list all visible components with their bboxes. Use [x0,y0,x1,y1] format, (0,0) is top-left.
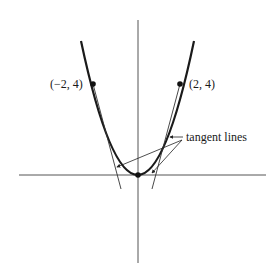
label-neg2-4: (−2, 4) [50,77,83,91]
parabola-diagram: (−2, 4) (2, 4) tangent lines [0,0,279,278]
arrow-to-right-tangent-bottom [152,140,182,173]
label-2-4: (2, 4) [189,77,215,91]
point-neg2-4 [90,81,96,87]
point-2-4 [177,81,183,87]
point-origin [135,172,141,178]
tangent-line-right [152,84,180,189]
label-tangent-lines: tangent lines [186,130,247,144]
arrow-to-left-tangent [117,140,182,167]
tangent-line-left [93,84,121,189]
